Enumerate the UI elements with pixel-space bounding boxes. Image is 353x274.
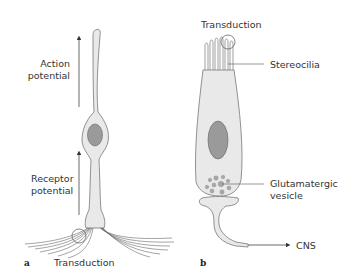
panel-letter-a: a xyxy=(24,258,30,268)
panel-letter-b: b xyxy=(200,258,206,268)
cns-label: CNS xyxy=(296,240,316,252)
transduction-label-b: Transduction xyxy=(201,19,262,31)
transduction-label-a: Transduction xyxy=(54,257,115,269)
stereocilia-label: Stereocilia xyxy=(270,59,320,71)
glutamatergic-vesicle-label: Glutamatergic vesicle xyxy=(270,178,338,202)
action-potential-label: Action potential xyxy=(24,58,70,82)
free-nerve-endings xyxy=(25,228,174,258)
stereocilia-bundle xyxy=(205,37,233,70)
afferent-synapse xyxy=(199,197,248,248)
neuron-nucleus xyxy=(88,124,103,146)
hair-cell-nucleus xyxy=(208,121,228,159)
diagram-canvas xyxy=(0,0,353,274)
receptor-potential-label: Receptor potential xyxy=(31,173,74,197)
